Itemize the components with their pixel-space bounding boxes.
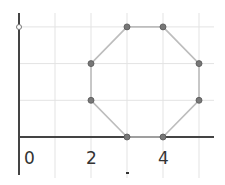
tick-mark-below [126,172,129,174]
vertex-point [124,24,130,30]
vertex-point [88,97,94,103]
x-tick-label-2: 2 [86,148,97,168]
vertex-point [160,134,166,140]
vertex-points [88,24,202,140]
coordinate-plane: 0 2 4 [0,0,225,185]
x-tick-label-4: 4 [158,148,169,168]
vertex-point [196,97,202,103]
vertex-point [124,134,130,140]
x-tick-labels: 0 2 4 [24,148,169,168]
vertex-point [160,24,166,30]
y-axis-point [17,25,22,30]
vertex-point [196,61,202,67]
octagon-polygon [91,27,199,137]
x-tick-label-0: 0 [24,148,35,168]
vertex-point [88,61,94,67]
